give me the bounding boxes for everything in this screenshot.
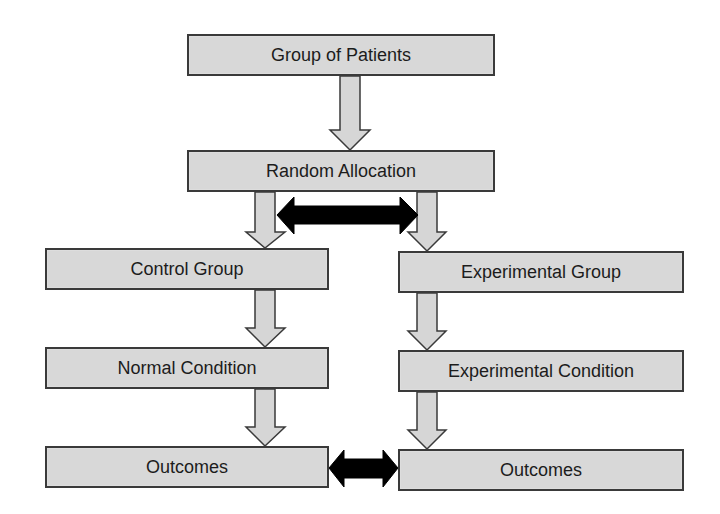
down-arrow-normal-to-outcomes [246, 389, 285, 446]
down-arrow-allocation-to-control [246, 192, 285, 248]
box-experimental-outcomes: Outcomes [398, 449, 684, 491]
box-control-outcomes: Outcomes [45, 446, 329, 488]
down-arrow-allocation-to-experimental [408, 192, 446, 251]
box-random-allocation: Random Allocation [187, 150, 495, 192]
box-label: Random Allocation [266, 161, 416, 182]
box-experimental-condition: Experimental Condition [398, 350, 684, 392]
down-arrow-patients-to-allocation [330, 76, 370, 150]
box-label: Experimental Condition [448, 361, 634, 382]
box-label: Outcomes [146, 457, 228, 478]
randomized-trial-flowchart: Group of Patients Random Allocation Cont… [0, 0, 720, 514]
box-experimental-group: Experimental Group [398, 251, 684, 293]
box-control-group: Control Group [45, 248, 329, 290]
box-group-of-patients: Group of Patients [187, 34, 495, 76]
box-normal-condition: Normal Condition [45, 347, 329, 389]
comparison-double-arrow-groups [277, 197, 418, 234]
box-label: Experimental Group [461, 262, 621, 283]
box-label: Group of Patients [271, 45, 411, 66]
down-arrow-experimental-to-condition [408, 293, 446, 350]
box-label: Control Group [130, 259, 243, 280]
down-arrow-control-to-normal [246, 290, 285, 347]
box-label: Normal Condition [117, 358, 256, 379]
box-label: Outcomes [500, 460, 582, 481]
comparison-double-arrow-outcomes [329, 450, 398, 487]
down-arrow-condition-to-outcomes [408, 392, 446, 449]
